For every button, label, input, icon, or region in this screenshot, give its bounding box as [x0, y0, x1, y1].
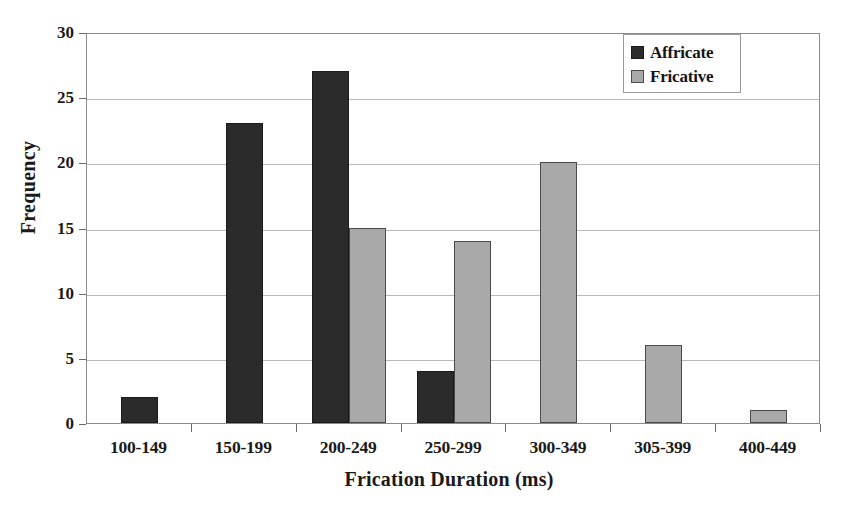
- x-axis-tick-label: 100-149: [86, 437, 191, 458]
- x-axis-tick-mark: [820, 424, 821, 432]
- x-axis-tick-label: 200-249: [296, 437, 401, 458]
- bar-fricative: [349, 228, 386, 424]
- y-axis-tick-label: 20: [34, 153, 74, 173]
- bar-affricate: [312, 71, 349, 423]
- y-axis-tick-label: 0: [34, 414, 74, 434]
- x-axis-tick-mark: [610, 424, 611, 432]
- y-axis-tick-label: 25: [34, 88, 74, 108]
- y-axis-tick-mark: [79, 359, 86, 360]
- bar-affricate: [226, 123, 263, 423]
- legend-item-fricative: Fricative: [631, 64, 734, 88]
- y-axis-tick-label: 30: [34, 23, 74, 43]
- y-axis-tick-mark: [79, 294, 86, 295]
- y-axis-tick-label: 10: [34, 284, 74, 304]
- x-axis-tick-mark: [296, 424, 297, 432]
- legend: Affricate Fricative: [623, 34, 741, 93]
- y-axis-tick-label: 5: [34, 349, 74, 369]
- bar-fricative: [540, 162, 577, 423]
- y-axis-tick-mark: [79, 229, 86, 230]
- x-axis-tick-mark: [715, 424, 716, 432]
- x-axis-tick-label: 400-449: [715, 437, 820, 458]
- x-axis-tick-label: 250-299: [401, 437, 506, 458]
- plot-area: Affricate Fricative: [86, 33, 820, 424]
- legend-label-fricative: Fricative: [650, 68, 713, 85]
- y-axis-tick-mark: [79, 98, 86, 99]
- legend-swatch-fricative-icon: [631, 70, 644, 83]
- legend-item-affricate: Affricate: [631, 40, 734, 64]
- bar-fricative: [454, 241, 491, 423]
- y-axis-tick-label: 15: [34, 219, 74, 239]
- x-axis-title: Frication Duration (ms): [344, 468, 553, 491]
- bar-chart: Frequency 051015202530 Affricate Fricati…: [0, 0, 860, 511]
- x-axis-title-wrap: Frication Duration (ms): [0, 468, 860, 491]
- y-axis-tick-mark: [79, 163, 86, 164]
- bar-affricate: [417, 371, 454, 423]
- y-axis-tick-mark: [79, 33, 86, 34]
- bar-fricative: [645, 345, 682, 423]
- x-axis-tick-label: 300-349: [505, 437, 610, 458]
- x-axis-tick-mark: [401, 424, 402, 432]
- bar-affricate: [121, 397, 158, 423]
- legend-label-affricate: Affricate: [650, 44, 713, 61]
- bar-fricative: [750, 410, 787, 423]
- y-axis-title: Frequency: [17, 88, 40, 288]
- x-axis-tick-mark: [505, 424, 506, 432]
- x-axis-tick-label: 305-399: [610, 437, 715, 458]
- y-axis-tick-mark: [79, 424, 86, 425]
- legend-swatch-affricate-icon: [631, 46, 644, 59]
- x-axis-tick-label: 150-199: [191, 437, 296, 458]
- x-axis-tick-mark: [191, 424, 192, 432]
